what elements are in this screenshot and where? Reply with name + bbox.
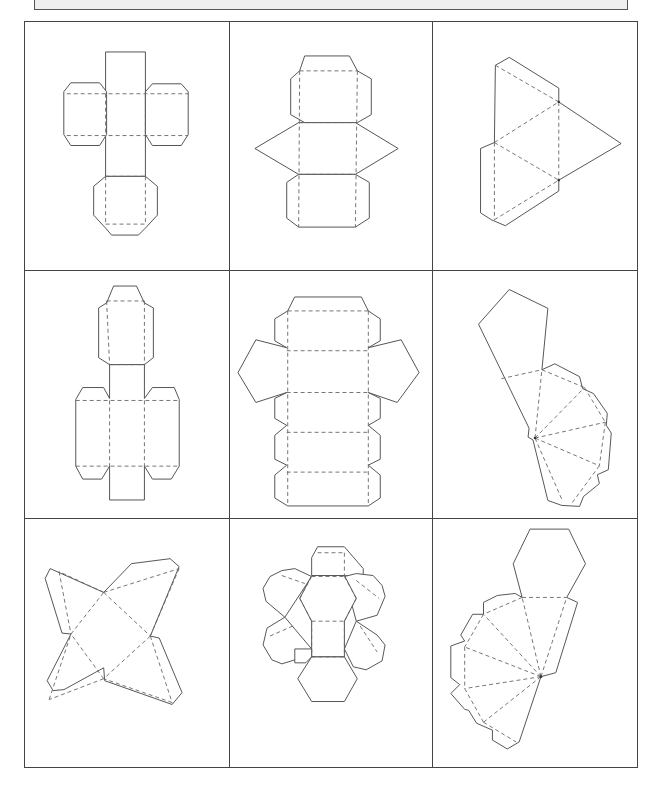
net-cell-pentagonal-prism: [230, 271, 433, 519]
rectangular-prism-net-icon: [25, 271, 229, 518]
net-cell-triangular-pyramid: [433, 22, 637, 271]
net-cell-rectangular-prism: [25, 271, 230, 519]
pentagonal-prism-net-icon: [230, 271, 432, 518]
worksheet-title-banner: [34, 0, 628, 10]
square-pyramid-net-icon: [25, 519, 229, 767]
net-cell-hexagonal-prism: [230, 519, 433, 767]
triangular-prism-net-icon: [230, 22, 432, 270]
net-cell-square-pyramid: [25, 519, 230, 767]
nets-grid: [24, 21, 638, 768]
hexagonal-pyramid-net-icon: [433, 519, 637, 767]
net-cell-triangular-prism: [230, 22, 433, 271]
net-cell-hexagonal-pyramid: [433, 519, 637, 767]
cube-net-icon: [25, 22, 229, 270]
pentagonal-pyramid-net-icon: [433, 271, 637, 518]
hexagonal-prism-net-icon: [230, 519, 432, 767]
net-cell-cube: [25, 22, 230, 271]
net-cell-pentagonal-pyramid: [433, 271, 637, 519]
triangular-pyramid-net-icon: [433, 22, 637, 270]
